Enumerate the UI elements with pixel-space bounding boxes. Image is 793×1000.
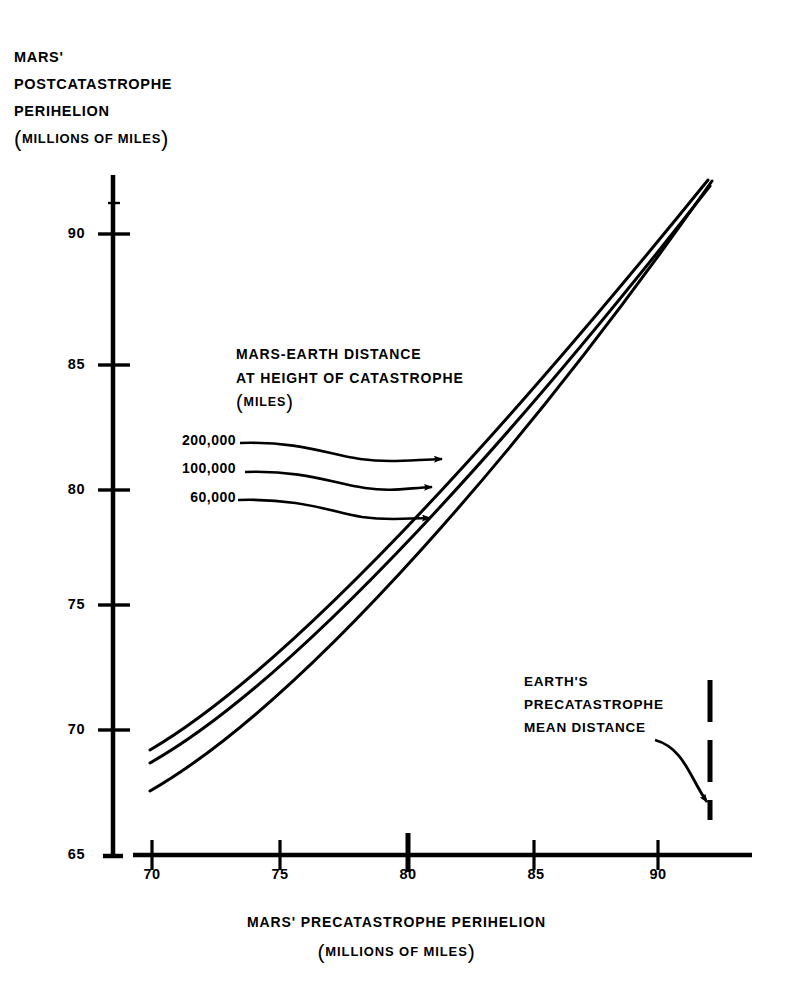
plot-area [0, 0, 793, 1000]
leader-arrow-100000 [245, 472, 432, 490]
curve-100000 [150, 186, 710, 763]
chart-figure: MARS' POSTCATASTROPHE PERIHELION (MILLIO… [0, 0, 793, 1000]
leader-arrow-earth-distance [655, 740, 707, 802]
leader-arrow-60000 [238, 500, 430, 519]
leader-arrow-200000 [240, 443, 442, 461]
curve-200000 [150, 180, 708, 750]
